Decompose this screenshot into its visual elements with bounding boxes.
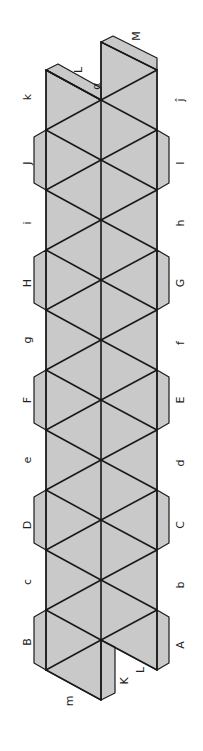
- glue-tab-left: [34, 250, 46, 310]
- edge-label-F: F: [22, 397, 33, 403]
- edge-label-b: b: [175, 582, 186, 589]
- glue-tab-bottom-k: [101, 640, 115, 700]
- edge-label-D: D: [22, 521, 33, 529]
- edge-label-B: B: [22, 638, 33, 646]
- edge-label-A: A: [175, 641, 186, 649]
- edge-label-j: ĵ: [175, 98, 186, 101]
- edge-label-g: g: [22, 337, 33, 344]
- edge-label-C: C: [175, 521, 186, 529]
- edge-label-E: E: [175, 397, 186, 404]
- edge-label-alpha: α: [91, 82, 102, 89]
- edge-label-f: f: [175, 341, 186, 345]
- glue-tab-right: [157, 130, 169, 190]
- edge-label-i: i: [22, 221, 33, 224]
- edge-label-M: M: [131, 31, 142, 41]
- glue-tab-left: [34, 130, 46, 190]
- edge-label-m: m: [64, 696, 75, 707]
- edge-label-L-bottom: L: [135, 667, 146, 673]
- edge-label-J: J: [22, 161, 33, 164]
- edge-label-h: h: [175, 220, 186, 227]
- glue-tab-left: [34, 490, 46, 550]
- edge-label-G: G: [175, 279, 186, 288]
- edge-label-H: H: [22, 279, 33, 287]
- glue-tab-left: [34, 610, 46, 670]
- edge-label-e: e: [22, 457, 33, 464]
- edge-label-d: d: [175, 460, 186, 467]
- glue-tab-right: [157, 370, 169, 430]
- edge-label-L-top: L: [73, 67, 84, 73]
- edge-label-I: I: [175, 161, 186, 164]
- glue-tab-right: [157, 250, 169, 310]
- glue-tab-right: [157, 490, 169, 550]
- glue-tab-right: [157, 610, 169, 670]
- edge-label-c: c: [22, 579, 33, 585]
- edge-label-k: k: [22, 94, 33, 100]
- edge-label-K: K: [119, 677, 130, 684]
- glue-tab-left: [34, 370, 46, 430]
